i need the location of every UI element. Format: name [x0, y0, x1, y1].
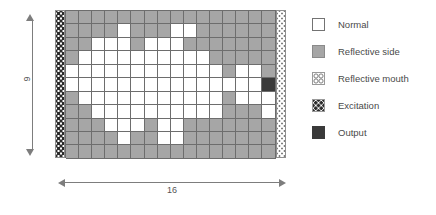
- cell-reflective-side: [79, 132, 92, 145]
- cell-normal: [92, 78, 105, 91]
- cell-normal: [158, 38, 171, 51]
- normal-swatch: [312, 18, 325, 31]
- cell-normal: [105, 105, 118, 118]
- cell-output: [262, 78, 275, 91]
- grid-cells: [65, 10, 276, 158]
- cell-reflective-side: [223, 11, 236, 24]
- cell-normal: [145, 105, 158, 118]
- legend-item-reflective-mouth: Reflective mouth: [312, 66, 436, 91]
- cell-normal: [131, 65, 144, 78]
- cell-reflective-side: [184, 119, 197, 132]
- cell-normal: [131, 78, 144, 91]
- cell-normal: [158, 65, 171, 78]
- cell-reflective-side: [262, 145, 275, 158]
- cell-normal: [145, 51, 158, 64]
- cell-reflective-side: [79, 11, 92, 24]
- cell-reflective-side: [236, 105, 249, 118]
- cell-reflective-side: [249, 11, 262, 24]
- cell-normal: [66, 78, 79, 91]
- cell-normal: [249, 92, 262, 105]
- dimension-line-vertical: [32, 20, 33, 150]
- cell-reflective-side: [131, 11, 144, 24]
- legend-label-excitation: Excitation: [338, 100, 379, 111]
- cell-normal: [158, 132, 171, 145]
- cell-reflective-side: [184, 132, 197, 145]
- cell-reflective-side: [210, 119, 223, 132]
- cell-reflective-side: [210, 132, 223, 145]
- cell-reflective-side: [249, 132, 262, 145]
- cell-normal: [171, 132, 184, 145]
- cell-normal: [131, 92, 144, 105]
- cell-reflective-side: [92, 24, 105, 37]
- legend-item-normal: Normal: [312, 12, 436, 37]
- cell-reflective-side: [236, 119, 249, 132]
- cell-reflective-side: [223, 105, 236, 118]
- cell-reflective-side: [223, 145, 236, 158]
- height-dimension-label: 9: [22, 62, 32, 96]
- cell-reflective-side: [223, 132, 236, 145]
- diagram-root: 9 16 Normal Reflective side: [0, 0, 436, 215]
- reflective-mouth-swatch: [312, 72, 325, 85]
- cell-reflective-side: [92, 145, 105, 158]
- cell-reflective-side: [210, 11, 223, 24]
- cell-normal: [105, 51, 118, 64]
- cell-reflective-side: [66, 11, 79, 24]
- cell-normal: [171, 78, 184, 91]
- cell-reflective-side: [79, 145, 92, 158]
- cell-normal: [223, 78, 236, 91]
- cell-normal: [118, 24, 131, 37]
- cell-normal: [105, 119, 118, 132]
- cell-reflective-side: [236, 11, 249, 24]
- cell-normal: [262, 105, 275, 118]
- cell-reflective-side: [171, 11, 184, 24]
- cell-normal: [197, 78, 210, 91]
- cell-reflective-side: [66, 145, 79, 158]
- cell-normal: [236, 92, 249, 105]
- cell-reflective-side: [118, 145, 131, 158]
- cell-reflective-side: [223, 51, 236, 64]
- legend-label-reflective-mouth: Reflective mouth: [338, 73, 409, 84]
- cell-reflective-side: [92, 11, 105, 24]
- reflective-side-swatch: [312, 45, 325, 58]
- reflective-mouth-strip: [276, 10, 286, 158]
- cell-normal: [197, 51, 210, 64]
- cell-normal: [171, 51, 184, 64]
- cell-normal: [210, 78, 223, 91]
- cell-reflective-side: [158, 11, 171, 24]
- cell-normal: [118, 78, 131, 91]
- cell-reflective-side: [145, 24, 158, 37]
- width-dimension-label: 16: [58, 185, 286, 195]
- cell-normal: [158, 92, 171, 105]
- cell-normal: [197, 105, 210, 118]
- cell-reflective-side: [66, 38, 79, 51]
- cell-reflective-side: [66, 105, 79, 118]
- cell-reflective-side: [210, 51, 223, 64]
- cell-reflective-side: [249, 24, 262, 37]
- cell-reflective-side: [184, 38, 197, 51]
- cell-reflective-side: [145, 11, 158, 24]
- cell-reflective-side: [131, 145, 144, 158]
- cell-normal: [79, 78, 92, 91]
- cell-reflective-side: [79, 119, 92, 132]
- cell-normal: [210, 105, 223, 118]
- cell-reflective-side: [66, 132, 79, 145]
- cell-reflective-side: [223, 38, 236, 51]
- cell-normal: [92, 51, 105, 64]
- cell-reflective-side: [249, 119, 262, 132]
- cell-reflective-side: [223, 24, 236, 37]
- cell-normal: [184, 24, 197, 37]
- cell-reflective-side: [118, 11, 131, 24]
- cell-normal: [158, 51, 171, 64]
- cell-reflective-side: [262, 132, 275, 145]
- cell-normal: [131, 51, 144, 64]
- cell-reflective-side: [249, 145, 262, 158]
- cell-reflective-side: [236, 51, 249, 64]
- cell-reflective-side: [249, 105, 262, 118]
- cell-normal: [92, 38, 105, 51]
- cell-normal: [92, 105, 105, 118]
- cell-normal: [66, 65, 79, 78]
- cell-normal: [210, 65, 223, 78]
- cell-reflective-side: [79, 105, 92, 118]
- cell-reflective-side: [197, 132, 210, 145]
- cell-reflective-side: [262, 11, 275, 24]
